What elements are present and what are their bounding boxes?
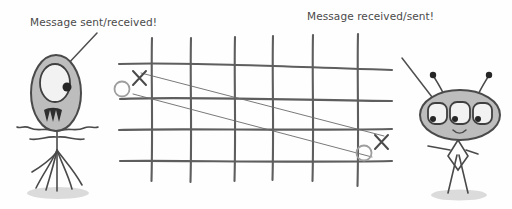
left-character-mouth [44, 108, 62, 122]
left-o-mark [115, 82, 130, 97]
left-character-pupil [63, 83, 72, 92]
right-character-torso [448, 140, 468, 170]
grid-vertical-5 [313, 35, 314, 181]
grid-horizontal-3 [119, 129, 392, 130]
message-line-1 [141, 73, 384, 136]
right-caption-label: Message received/sent! [307, 10, 434, 22]
left-marks [115, 71, 147, 97]
left-character-roots [32, 150, 82, 191]
message-line-2 [133, 94, 372, 157]
diagram-canvas: Message sent/received! Message received/… [0, 0, 512, 209]
left-x-mark [133, 71, 146, 85]
left-character [17, 55, 98, 199]
right-leader-line [402, 58, 432, 97]
right-x-mark [375, 135, 388, 149]
grid-vertical-1 [152, 38, 153, 181]
right-character-shadow [431, 190, 487, 201]
right-character-pupil-1 [430, 116, 436, 122]
grid-horizontal-2 [120, 98, 392, 101]
grid-vertical-lines [152, 34, 359, 186]
right-character-antenna-right-tip [486, 72, 492, 78]
message-lines [133, 73, 384, 157]
right-character-pupil-2 [452, 116, 458, 122]
hand-drawn-illustration: Message sent/received! Message received/… [0, 0, 512, 209]
grid-horizontal-4 [120, 161, 392, 162]
right-character-pupil-3 [475, 116, 481, 122]
right-character-antenna-left-tip [430, 72, 436, 78]
left-character-shadow [27, 187, 89, 199]
left-caption-label: Message sent/received! [30, 16, 157, 28]
right-character [420, 72, 500, 201]
grid-vertical-3 [235, 37, 236, 181]
grid-vertical-4 [273, 36, 274, 180]
grid-horizontal-1 [119, 63, 392, 70]
grid-vertical-6 [358, 34, 359, 186]
